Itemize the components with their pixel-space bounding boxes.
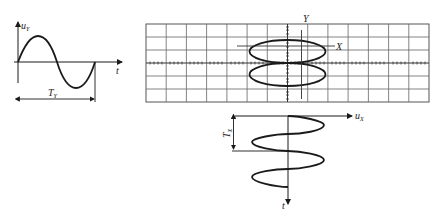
ux-waveform-plot: uX t TX bbox=[221, 110, 364, 211]
svg-text:TY: TY bbox=[48, 87, 58, 99]
lissajous-diagram: uY t TY Y X bbox=[0, 0, 442, 216]
svg-text:uX: uX bbox=[355, 110, 364, 122]
svg-text:uY: uY bbox=[21, 20, 30, 32]
t-label: t bbox=[116, 65, 119, 76]
uy-waveform-plot: uY t TY bbox=[14, 20, 122, 102]
oscilloscope-screen: Y X bbox=[146, 13, 429, 102]
x-label: X bbox=[335, 41, 343, 52]
svg-text:TX: TX bbox=[221, 128, 233, 138]
t-label-bottom: t bbox=[282, 200, 285, 211]
y-label: Y bbox=[303, 13, 310, 24]
